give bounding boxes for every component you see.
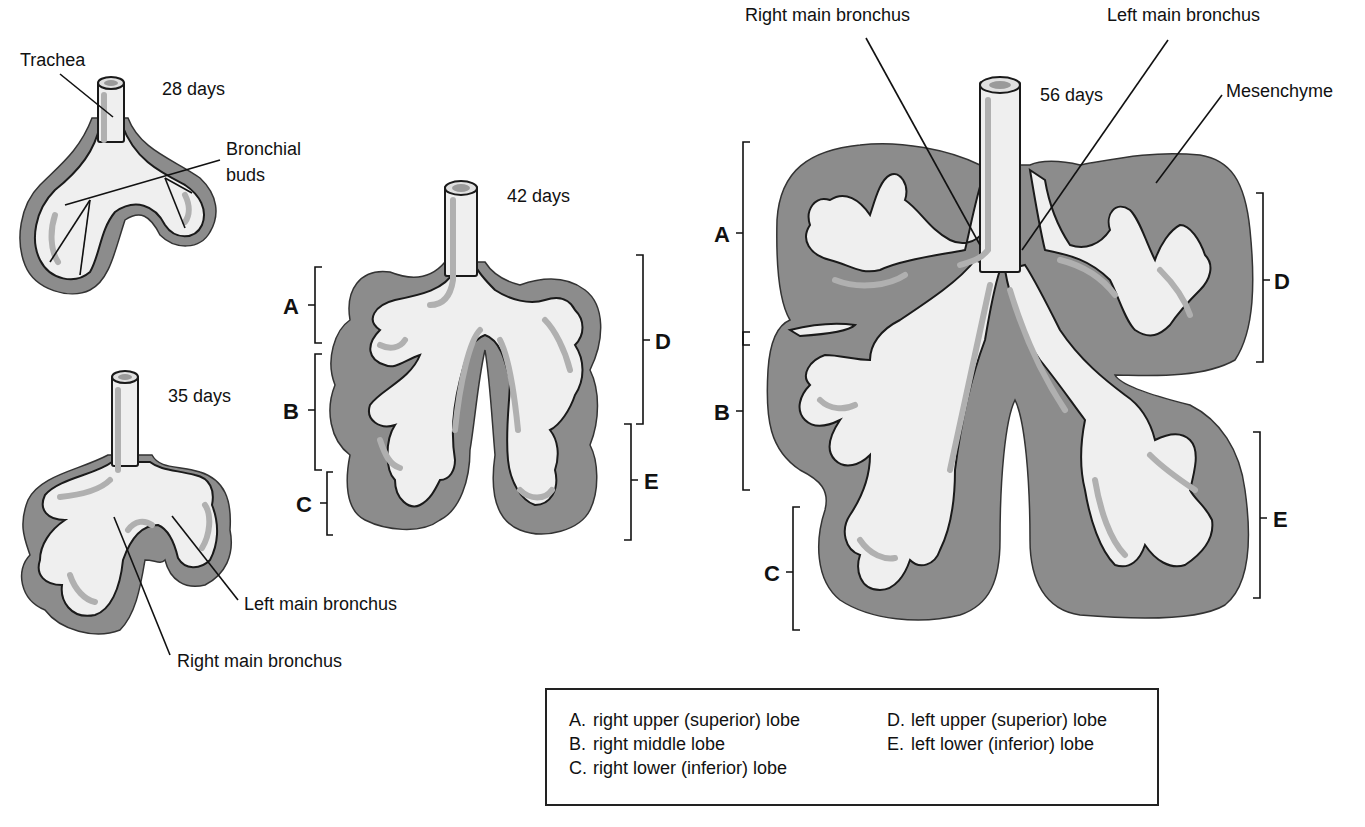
legend-item-C: C.right lower (inferior) lobe: [569, 758, 787, 779]
stage-42-days-label: 42 days: [507, 186, 570, 207]
bracket-42-D-label: D: [655, 329, 671, 355]
bracket-56-D-label: D: [1274, 269, 1290, 295]
stage-35-days-label: 35 days: [168, 386, 231, 407]
legend-item-D: D.left upper (superior) lobe: [887, 710, 1107, 731]
bronchial-buds-label-line2: buds: [226, 165, 265, 186]
left-main-bronchus-35-label: Left main bronchus: [244, 594, 397, 615]
bracket-42-C-label: C: [296, 492, 312, 518]
lobe-legend-box: A.right upper (superior) lobe B.right mi…: [545, 688, 1159, 806]
stage-56-days-label: 56 days: [1040, 85, 1103, 106]
bracket-42-A-label: A: [283, 294, 299, 320]
legend-item-E: E.left lower (inferior) lobe: [887, 734, 1094, 755]
bracket-56-B-label: B: [714, 400, 730, 426]
stage-35-days-diagram: [22, 371, 238, 655]
bracket-42-E-label: E: [644, 469, 659, 495]
bracket-42-B-label: B: [283, 399, 299, 425]
left-main-bronchus-56-label: Left main bronchus: [1107, 5, 1260, 26]
right-main-bronchus-35-label: Right main bronchus: [177, 651, 342, 672]
legend-item-A: A.right upper (superior) lobe: [569, 710, 800, 731]
trachea-label: Trachea: [20, 50, 85, 71]
stage-28-days-diagram: [20, 74, 220, 294]
stage-42-days-diagram: [330, 181, 601, 534]
right-main-bronchus-56-label: Right main bronchus: [745, 5, 910, 26]
stage-28-days-label: 28 days: [162, 79, 225, 100]
bracket-56-C-label: C: [764, 561, 780, 587]
bracket-56-A-label: A: [714, 222, 730, 248]
legend-item-B: B.right middle lobe: [569, 734, 725, 755]
bracket-56-E-label: E: [1273, 507, 1288, 533]
bronchial-buds-label-line1: Bronchial: [226, 139, 301, 160]
stage-56-days-diagram: [767, 38, 1253, 620]
mesenchyme-label: Mesenchyme: [1226, 81, 1333, 102]
